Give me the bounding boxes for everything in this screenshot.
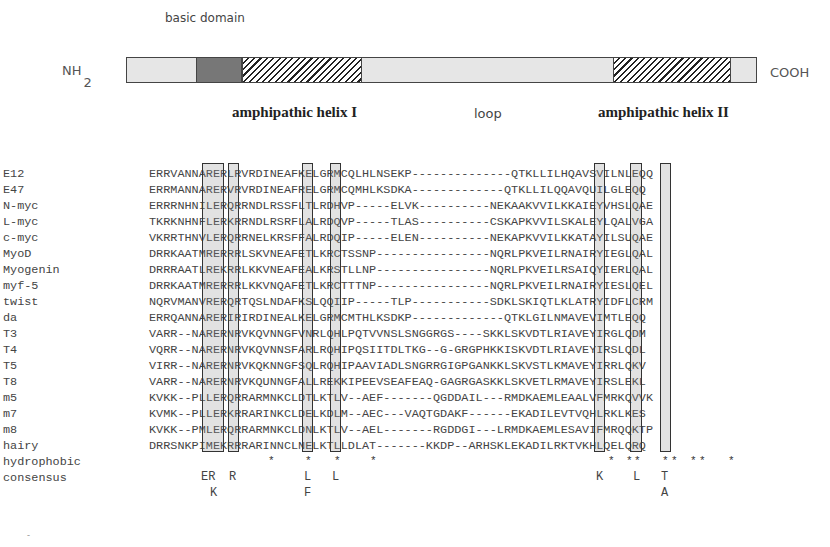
conserved-column-box	[228, 163, 239, 452]
consensus-residue: K	[596, 470, 603, 484]
hydrophobic-star: *	[634, 455, 641, 467]
sequence-residues: DRRKAATMRERRRLKKVNQAFETLKRCTTTNP--------…	[149, 278, 653, 294]
sequence-name: T8	[3, 374, 143, 390]
conserved-column-box	[330, 163, 341, 452]
sequence-name: hairy	[3, 438, 143, 454]
sequence-name: Myogenin	[3, 262, 143, 278]
conserved-column-box	[302, 163, 313, 452]
domain-segment-dark	[196, 58, 242, 82]
nh-text: NH	[62, 63, 82, 78]
domain-segment-light	[127, 58, 196, 82]
sequence-residues: VKRRTHNVLERQRRNELKRSFFALRDQIP-----ELEN--…	[149, 230, 653, 246]
sequence-name: E12	[3, 166, 143, 182]
helix-2-label: amphipathic helix II	[598, 104, 729, 121]
consensus-label: consensus	[3, 470, 143, 486]
hydrophobic-star: *	[305, 455, 312, 467]
consensus-alt-residue: F	[304, 486, 311, 500]
hydrophobic-star: *	[268, 455, 275, 467]
sequence-residues: DRRRAATLREKRRLKKVNEAFEALKRSTLLNP--------…	[149, 262, 653, 278]
sequence-name: MyoD	[3, 246, 143, 262]
loop-label: loop	[474, 106, 502, 121]
consensus-alt-residue: K	[210, 486, 217, 500]
n-terminus-label: NH2	[62, 63, 92, 82]
sequence-name: L-myc	[3, 214, 143, 230]
sequence-name: T5	[3, 358, 143, 374]
sequence-residues: KVKK--PLLERQRRARMNKCLDTLKTLV--AEF-------…	[149, 390, 653, 406]
conserved-column-box	[630, 163, 642, 452]
sequence-residues: KVKK--PMLERQRRARMNKCLDNLKTLV--AEL-------…	[149, 422, 653, 438]
domain-segment-hatch	[242, 58, 363, 82]
hydrophobic-star: *	[334, 455, 341, 467]
sequence-name: twist	[3, 294, 143, 310]
hydrophobic-star: *	[728, 455, 735, 467]
consensus-residue: L	[633, 470, 640, 484]
conserved-column-box	[594, 163, 605, 452]
basic-domain-label: basic domain	[165, 11, 245, 25]
sequence-residues: NQRVMANVRERQRTQSLNDAFKSLQQIIP-----TLP---…	[149, 294, 653, 310]
sequence-name: T4	[3, 342, 143, 358]
helix-1-label: amphipathic helix I	[232, 104, 357, 121]
nh-subscript: 2	[84, 75, 92, 90]
consensus-residue: L	[332, 470, 339, 484]
hydrophobic-star: *	[626, 455, 633, 467]
consensus-alt-residue: A	[661, 486, 668, 500]
sequence-residues: ERRVANNARERLRVRDINEAFKELGRMCQLHLNSEKP---…	[149, 166, 653, 182]
sequence-name: da	[3, 310, 143, 326]
sequence-residues: ERRRNHNILERQRRNDLRSSFLTLRDHVP-----ELVK--…	[149, 198, 653, 214]
sequence-name: T3	[3, 326, 143, 342]
consensus-residue: L	[304, 470, 311, 484]
sequence-residues: TKRKNHNFLERKRRNDLRSRFLALRDQVP-----TLAS--…	[149, 214, 653, 230]
sequence-name: c-myc	[3, 230, 143, 246]
sequence-name: m7	[3, 406, 143, 422]
sequence-name: myf-5	[3, 278, 143, 294]
c-terminus-label: COOH	[770, 65, 809, 80]
consensus-residue: R	[229, 470, 236, 484]
conserved-column-box	[202, 163, 224, 452]
hydrophobic-star: *	[608, 455, 615, 467]
sequence-name: m8	[3, 422, 143, 438]
domain-segment-hatch	[613, 58, 731, 82]
sequence-residues: DRRKAATMRERRRLSKVNEAFETLKRCTSSNP--------…	[149, 246, 653, 262]
hydrophobic-star: *	[699, 455, 706, 467]
hydrophobic-label: hydrophobic	[3, 454, 143, 470]
hydrophobic-star: *	[370, 455, 377, 467]
sequence-name: E47	[3, 182, 143, 198]
hydrophobic-star: *	[671, 455, 678, 467]
domain-bar	[126, 57, 757, 83]
consensus-residue: ER	[201, 470, 215, 484]
domain-segment-light	[362, 58, 613, 82]
hydrophobic-star: *	[662, 455, 669, 467]
stray-mark: -	[27, 530, 30, 540]
domain-segment-light	[731, 58, 756, 82]
conserved-column-box	[660, 163, 671, 452]
consensus-residue: T	[661, 470, 668, 484]
sequence-name: m5	[3, 390, 143, 406]
sequence-name: N-myc	[3, 198, 143, 214]
hydrophobic-star: *	[690, 455, 697, 467]
